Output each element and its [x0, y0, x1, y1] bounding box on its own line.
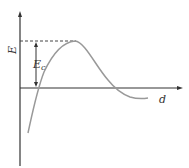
energy-diagram: E Ec d: [0, 0, 189, 168]
y-axis-arrow-icon: [18, 11, 22, 17]
x-axis-arrow-icon: [177, 86, 183, 90]
y-axis-label: E: [6, 46, 19, 55]
x-axis-label: d: [159, 93, 166, 106]
energy-curve: [28, 41, 148, 133]
barrier-arrow-down-icon: [34, 82, 38, 87]
barrier-arrow-up-icon: [34, 42, 38, 47]
barrier-label: Ec: [32, 58, 46, 72]
